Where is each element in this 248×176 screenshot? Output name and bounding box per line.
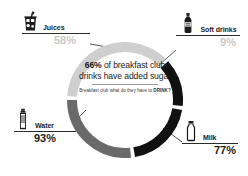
juice-cup-icon (22, 10, 40, 32)
headline: 66% of breakfast club drinks have added … (75, 60, 175, 81)
callout-milk[interactable]: Milk 77% (182, 120, 238, 157)
callout-soft-drinks-row: Soft drinks (176, 12, 240, 34)
headline-percent: 66% (85, 60, 102, 70)
callout-juices-row: Juices (22, 10, 90, 32)
center-divider (92, 84, 158, 85)
callout-juices-percent: 58% (22, 34, 90, 47)
subtitle: Breakfast club what do they have to DRIN… (75, 88, 175, 94)
callout-soft-drinks-label: Soft drinks (200, 25, 236, 34)
callout-water-label: Water (35, 121, 54, 130)
callout-water[interactable]: Water 93% (14, 108, 76, 145)
milk-bottle-icon (182, 120, 200, 142)
water-bottle-icon (14, 108, 32, 130)
callout-water-percent: 93% (14, 132, 76, 145)
callout-milk-label: Milk (203, 133, 216, 142)
callout-milk-row: Milk (182, 120, 238, 142)
center-text-block: 66% of breakfast club drinks have added … (75, 60, 175, 94)
soda-bottle-icon (179, 12, 197, 34)
callout-soft-drinks-percent: 9% (176, 36, 240, 49)
callout-water-row: Water (14, 108, 76, 130)
donut-segment-milk (134, 109, 177, 152)
callout-soft-drinks[interactable]: Soft drinks 9% (176, 12, 240, 49)
subtitle-strong: DRINK? (153, 88, 170, 93)
callout-juices-label: Juices (43, 23, 65, 32)
donut-segment-water (72, 100, 131, 153)
subtitle-lead: Breakfast club what do they have to (79, 88, 153, 93)
infographic-canvas: 66% of breakfast club drinks have added … (0, 0, 248, 176)
callout-milk-percent: 77% (182, 144, 238, 157)
callout-juices[interactable]: Juices 58% (22, 10, 90, 47)
